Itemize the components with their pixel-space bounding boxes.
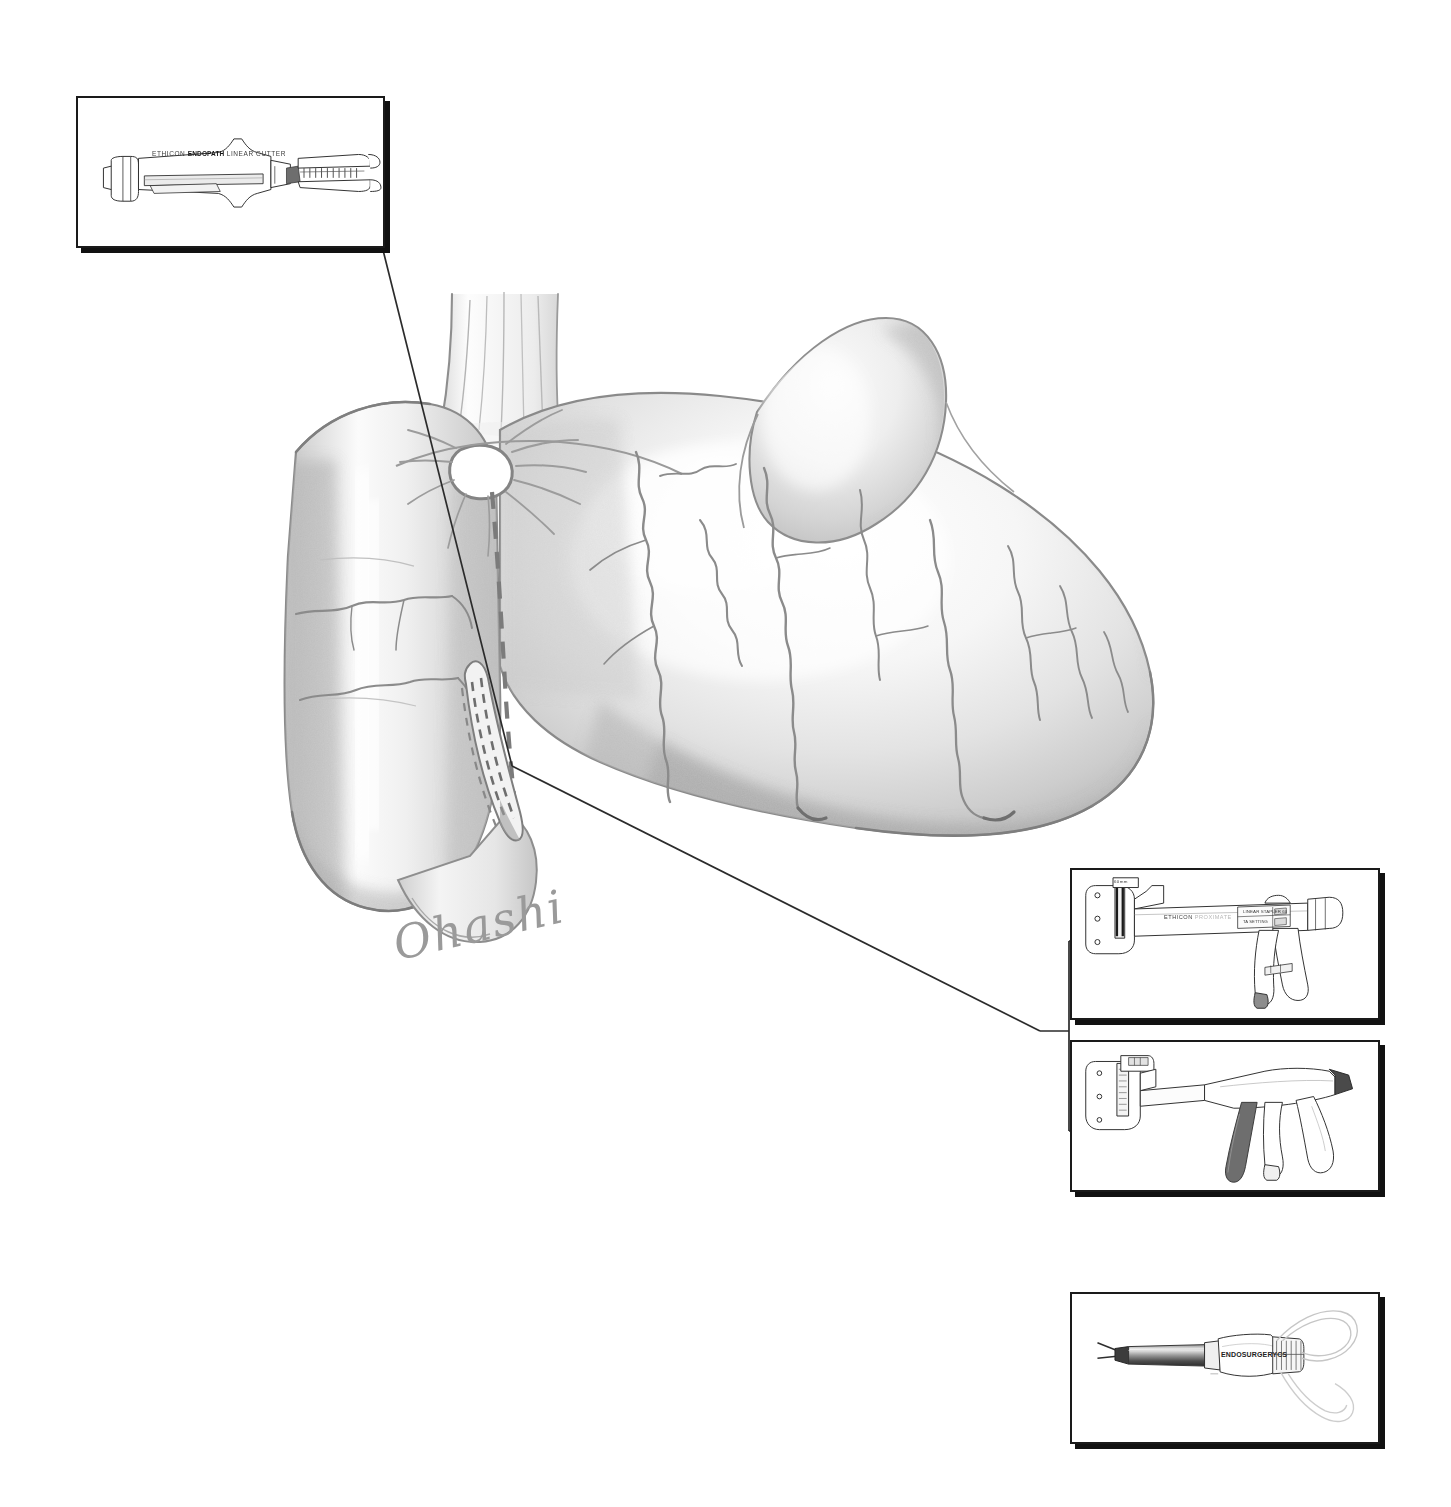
circular-stapler-brand-label: ENDOSURGERYCS — [1221, 1351, 1287, 1358]
circular-stapler-drawing — [1072, 1294, 1378, 1442]
linear-stapler-brand-label: ETHICON PROXIMATE — [1164, 914, 1232, 920]
surgical-illustration-figure: Ohashi — [0, 0, 1451, 1507]
linear-stapler-descriptor-label: LINEAR STAPLER 60 — [1243, 909, 1287, 914]
linear-stapler-drawing — [1072, 870, 1378, 1018]
inset-linear-cutter[interactable]: ETHICON ENDOPATH LINEAR CUTTER — [76, 96, 385, 248]
inset-linear-stapler-alt[interactable] — [1070, 1040, 1380, 1192]
inset-circular-stapler[interactable]: ENDOSURGERYCS — [1070, 1292, 1380, 1444]
linear-stapler-size-tick: 60mm — [1114, 879, 1128, 884]
linear-stapler-setting-label: TA SETTING — [1243, 919, 1268, 924]
linear-cutter-brand-label: ETHICON ENDOPATH LINEAR CUTTER — [152, 150, 286, 157]
linear-stapler-alt-drawing — [1072, 1042, 1378, 1190]
linear-cutter-drawing — [78, 98, 383, 246]
inset-linear-stapler[interactable]: ETHICON PROXIMATE LINEAR STAPLER 60 TA S… — [1070, 868, 1380, 1020]
